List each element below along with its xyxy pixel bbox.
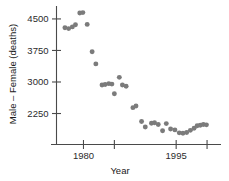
y-axis: 2250300037504500 [27, 6, 61, 145]
data-point [143, 125, 148, 130]
data-point [73, 22, 78, 27]
y-axis-tick-label: 3750 [27, 45, 48, 56]
y-axis-title: Male – Female (deaths) [7, 24, 18, 124]
data-point [124, 84, 129, 89]
data-point [160, 128, 165, 133]
data-point [85, 22, 90, 27]
data-point [109, 82, 114, 87]
data-point [139, 119, 144, 124]
data-point [156, 122, 161, 127]
x-axis: 19801995 [51, 140, 221, 161]
x-axis-tick-label: 1980 [73, 150, 94, 161]
y-axis-tick-label: 4500 [27, 13, 48, 24]
data-point [112, 91, 117, 96]
chart-figure: 2250300037504500 19801995 YearMale – Fem… [0, 0, 229, 181]
data-point [164, 121, 169, 126]
data-points [62, 10, 208, 136]
data-point [134, 104, 139, 109]
scatter-plot: 2250300037504500 19801995 YearMale – Fem… [0, 0, 229, 181]
data-point [90, 49, 95, 54]
data-point [172, 127, 177, 132]
axis-titles: YearMale – Female (deaths) [7, 24, 130, 176]
x-axis-tick-label: 1995 [166, 150, 187, 161]
x-axis-title: Year [110, 165, 129, 176]
y-axis-tick-label: 2250 [27, 108, 48, 119]
data-point [117, 75, 122, 80]
data-point [93, 61, 98, 66]
data-point [80, 10, 85, 15]
y-axis-tick-label: 3000 [27, 76, 48, 87]
data-point [204, 122, 209, 127]
data-point [168, 127, 173, 132]
